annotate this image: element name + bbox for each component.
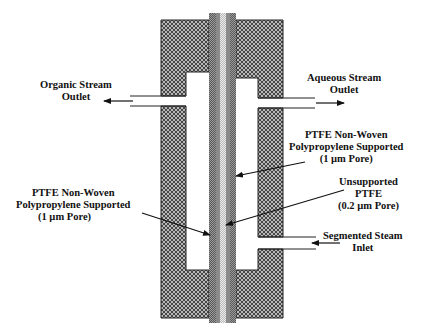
ptfe-right-label: PTFE Non-Woven Polypropylene Supported (… — [289, 129, 403, 165]
unsupported-line2: PTFE — [338, 188, 399, 200]
organic-outlet-line1: Organic Stream — [40, 79, 112, 91]
aqueous-outlet-line2: Outlet — [307, 84, 381, 96]
ptfe-left-line3: (1 µm Pore) — [16, 211, 130, 223]
membrane-stack — [209, 13, 236, 323]
organic-outlet-line2: Outlet — [40, 91, 112, 103]
segmented-inlet-line2: Inlet — [323, 242, 403, 254]
segmented-inlet-label: Segmented Steam Inlet — [323, 230, 403, 254]
ptfe-left-label: PTFE Non-Woven Polypropylene Supported (… — [16, 187, 130, 223]
organic-outlet-label: Organic Stream Outlet — [40, 79, 112, 103]
membrane-separator-diagram — [0, 0, 445, 335]
unsupported-line1: Unsupported — [338, 176, 399, 188]
ptfe-right-line2: Polypropylene Supported — [289, 141, 403, 153]
ptfe-left-line1: PTFE Non-Woven — [16, 187, 130, 199]
unsupported-pointer — [226, 190, 344, 225]
unsupported-line3: (0.2 µm Pore) — [338, 200, 399, 212]
aqueous-outlet-line1: Aqueous Stream — [307, 72, 381, 84]
ptfe-left-line2: Polypropylene Supported — [16, 199, 130, 211]
left-housing — [161, 20, 209, 318]
aqueous-outlet-label: Aqueous Stream Outlet — [307, 72, 381, 96]
segmented-inlet-line1: Segmented Steam — [323, 230, 403, 242]
unsupported-label: Unsupported PTFE (0.2 µm Pore) — [338, 176, 399, 212]
right-housing — [236, 20, 283, 318]
ptfe-right-line3: (1 µm Pore) — [289, 153, 403, 165]
ptfe-right-line1: PTFE Non-Woven — [289, 129, 403, 141]
